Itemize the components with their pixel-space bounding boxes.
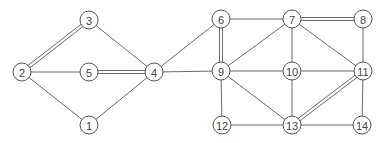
node-label: 12 bbox=[216, 120, 228, 132]
node-label: 11 bbox=[357, 66, 368, 78]
node-7: 7 bbox=[283, 10, 301, 28]
node-14: 14 bbox=[353, 116, 371, 134]
edge-7-9 bbox=[221, 19, 292, 71]
edge-5-4 bbox=[89, 71, 154, 74]
edge-2-1 bbox=[22, 72, 89, 125]
node-label: 6 bbox=[218, 14, 224, 26]
graph-diagram: 1234567891011121314 bbox=[0, 0, 385, 143]
node-label: 8 bbox=[360, 14, 366, 26]
node-label: 9 bbox=[218, 66, 224, 78]
node-2: 2 bbox=[13, 63, 31, 81]
node-label: 3 bbox=[86, 15, 92, 27]
node-label: 7 bbox=[289, 14, 295, 26]
node-label: 4 bbox=[151, 67, 157, 79]
edge-7-8 bbox=[292, 18, 363, 21]
node-4: 4 bbox=[145, 63, 163, 81]
node-label: 2 bbox=[19, 67, 25, 79]
node-11: 11 bbox=[354, 62, 372, 80]
node-label: 1 bbox=[86, 120, 92, 132]
edge-2-3 bbox=[21, 19, 90, 73]
node-6: 6 bbox=[212, 10, 230, 28]
node-12: 12 bbox=[213, 116, 231, 134]
edge-9-13 bbox=[221, 71, 292, 125]
edge-layer bbox=[21, 18, 364, 127]
node-label: 14 bbox=[356, 120, 368, 132]
node-label: 13 bbox=[286, 120, 298, 132]
edge-7-11 bbox=[292, 19, 363, 71]
node-1: 1 bbox=[80, 116, 98, 134]
edge-11-13 bbox=[291, 70, 364, 126]
edge-3-4 bbox=[89, 20, 154, 72]
edge-1-4 bbox=[89, 72, 154, 125]
node-9: 9 bbox=[212, 62, 230, 80]
edge-4-9 bbox=[154, 71, 221, 72]
edge-4-6 bbox=[154, 19, 221, 72]
node-label: 10 bbox=[286, 66, 298, 78]
node-8: 8 bbox=[354, 10, 372, 28]
node-label: 5 bbox=[86, 67, 92, 79]
node-10: 10 bbox=[283, 62, 301, 80]
node-5: 5 bbox=[80, 63, 98, 81]
node-13: 13 bbox=[283, 116, 301, 134]
node-3: 3 bbox=[80, 11, 98, 29]
